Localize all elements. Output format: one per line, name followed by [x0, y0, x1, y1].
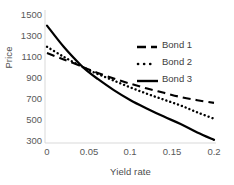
legend-label: Bond 3 — [162, 73, 192, 84]
legend-label: Bond 1 — [162, 39, 192, 50]
plot-area — [0, 0, 234, 185]
legend-swatch-dashed-icon — [136, 39, 158, 51]
legend-label: Bond 2 — [162, 56, 192, 67]
legend-swatch-solid-icon — [136, 73, 158, 85]
legend-item-bond-1: Bond 1 — [136, 36, 232, 53]
legend-item-bond-2: Bond 2 — [136, 53, 232, 70]
legend: Bond 1 Bond 2 Bond 3 — [136, 36, 232, 87]
bond-price-yield-chart: Price 1500 1300 1100 900 700 500 300 0 0… — [0, 0, 234, 185]
legend-swatch-dotted-icon — [136, 56, 158, 68]
legend-item-bond-3: Bond 3 — [136, 70, 232, 87]
